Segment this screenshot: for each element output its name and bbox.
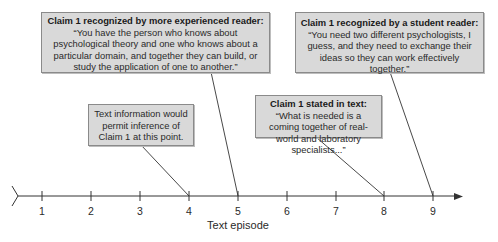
- callout-quote: “What is needed is a coming together of …: [260, 110, 377, 156]
- leader-inference-point: [141, 145, 189, 196]
- callout-quote: “You have the person who knows about psy…: [45, 27, 266, 73]
- callout-quote: “You need two different psychologists, I…: [299, 29, 480, 75]
- tick-label-8: 8: [377, 205, 391, 217]
- tick-label-9: 9: [426, 205, 440, 217]
- callout-student-reader: Claim 1 recognized by a student reader: …: [295, 12, 484, 73]
- axis-title: Text episode: [198, 219, 278, 231]
- axis-start-chevron: [12, 186, 18, 206]
- callout-experienced-reader: Claim 1 recognized by more experienced r…: [41, 12, 270, 73]
- callout-text: Text information would permit inference …: [93, 108, 189, 143]
- tick-label-5: 5: [231, 205, 245, 217]
- tick-label-7: 7: [329, 205, 343, 217]
- leader-student-reader: [390, 72, 433, 196]
- callout-inference-point: Text information would permit inference …: [88, 104, 194, 146]
- tick-label-4: 4: [182, 205, 196, 217]
- tick-label-2: 2: [84, 205, 98, 217]
- callout-title: Claim 1 stated in text:: [260, 98, 377, 110]
- axis-arrowhead: [454, 193, 463, 200]
- tick-label-1: 1: [35, 205, 49, 217]
- tick-label-3: 3: [133, 205, 147, 217]
- callout-stated-in-text: Claim 1 stated in text: “What is needed …: [255, 95, 382, 138]
- callout-title: Claim 1 recognized by a student reader:: [299, 17, 480, 29]
- leader-experienced-reader: [211, 72, 238, 196]
- tick-label-6: 6: [280, 205, 294, 217]
- timeline-diagram: Claim 1 recognized by more experienced r…: [0, 0, 498, 242]
- callout-title: Claim 1 recognized by more experienced r…: [45, 15, 266, 27]
